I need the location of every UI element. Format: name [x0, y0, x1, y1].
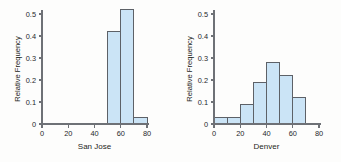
- y-axis-tick-label: 0: [204, 120, 208, 129]
- histogram-figure: 00.10.20.30.40.5020406080San JoseRelativ…: [0, 0, 341, 162]
- histogram-bar: [121, 10, 134, 124]
- y-axis-tick-label: 0.1: [26, 98, 36, 107]
- y-axis-tick-label: 0.1: [198, 98, 208, 107]
- y-axis-tick-label: 0.3: [26, 54, 36, 63]
- y-axis-tick-label: 0.3: [198, 54, 208, 63]
- y-axis-title: Relative Frequency: [185, 36, 194, 102]
- x-axis-tick-label: 40: [262, 129, 270, 138]
- x-axis-tick-label: 20: [236, 129, 244, 138]
- x-axis-tick-label: 60: [117, 129, 125, 138]
- histogram-bar: [108, 32, 121, 124]
- histogram-bar: [240, 104, 253, 124]
- chart-panel-denver: 00.10.20.30.40.5020406080DenverRelative …: [170, 0, 341, 162]
- bars-group: [108, 10, 147, 124]
- y-axis-tick-label: 0.4: [26, 32, 36, 41]
- x-axis-title: San Jose: [78, 142, 112, 151]
- x-axis-title: Denver: [254, 142, 280, 151]
- x-axis-tick-label: 80: [143, 129, 151, 138]
- histogram-bar: [293, 98, 306, 124]
- x-axis-tick-label: 0: [40, 129, 44, 138]
- y-axis-tick-label: 0.4: [198, 32, 208, 41]
- histogram-bar: [267, 62, 280, 124]
- x-axis-tick-label: 20: [64, 129, 72, 138]
- y-axis-tick-label: 0: [32, 120, 36, 129]
- histogram-bar: [253, 82, 266, 124]
- histogram-bar: [214, 117, 227, 124]
- x-axis-tick-label: 60: [289, 129, 297, 138]
- y-axis-tick-label: 0.2: [198, 76, 208, 85]
- histogram-bar: [134, 117, 147, 124]
- san-jose-histogram-plot: 00.10.20.30.40.5020406080San JoseRelativ…: [0, 0, 170, 162]
- bars-group: [214, 62, 306, 124]
- histogram-bar: [280, 76, 293, 124]
- x-axis-tick-label: 80: [315, 129, 323, 138]
- histogram-bar: [227, 117, 240, 124]
- chart-panel-san-jose: 00.10.20.30.40.5020406080San JoseRelativ…: [0, 0, 170, 162]
- denver-histogram-plot: 00.10.20.30.40.5020406080DenverRelative …: [170, 0, 341, 162]
- y-axis-tick-label: 0.2: [26, 76, 36, 85]
- y-axis-tick-label: 0.5: [26, 10, 36, 19]
- x-axis-tick-label: 0: [212, 129, 216, 138]
- x-axis-tick-label: 40: [90, 129, 98, 138]
- y-axis-tick-label: 0.5: [198, 10, 208, 19]
- y-axis-title: Relative Frequency: [13, 36, 22, 102]
